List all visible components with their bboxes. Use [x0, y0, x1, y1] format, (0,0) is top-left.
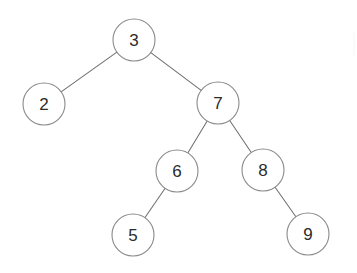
tree-node-8[interactable]: 8: [242, 149, 284, 191]
binary-tree-diagram: 3 2 7 6 8 5: [0, 0, 357, 273]
node-label-7: 7: [213, 94, 222, 113]
tree-canvas: 3 2 7 6 8 5: [0, 0, 357, 273]
node-label-9: 9: [303, 225, 312, 244]
node-group: 3 2 7 6 8 5: [23, 19, 329, 256]
tree-node-3[interactable]: 3: [113, 19, 155, 61]
node-label-8: 8: [258, 161, 267, 180]
edge-7-6: [188, 121, 207, 153]
edge-6-5: [145, 188, 165, 217]
scan-artifact: [353, 33, 355, 55]
tree-node-7[interactable]: 7: [197, 82, 239, 124]
node-label-5: 5: [128, 226, 137, 245]
tree-node-9[interactable]: 9: [287, 213, 329, 255]
edge-7-8: [230, 120, 252, 152]
tree-node-5[interactable]: 5: [112, 214, 154, 256]
node-label-2: 2: [39, 95, 48, 114]
edge-group: [61, 52, 296, 218]
tree-node-6[interactable]: 6: [156, 150, 198, 192]
edge-3-2: [61, 52, 117, 92]
edge-8-9: [275, 187, 296, 217]
node-label-6: 6: [172, 162, 181, 181]
tree-node-2[interactable]: 2: [23, 83, 65, 125]
edge-3-7: [151, 53, 201, 91]
node-label-3: 3: [129, 31, 138, 50]
